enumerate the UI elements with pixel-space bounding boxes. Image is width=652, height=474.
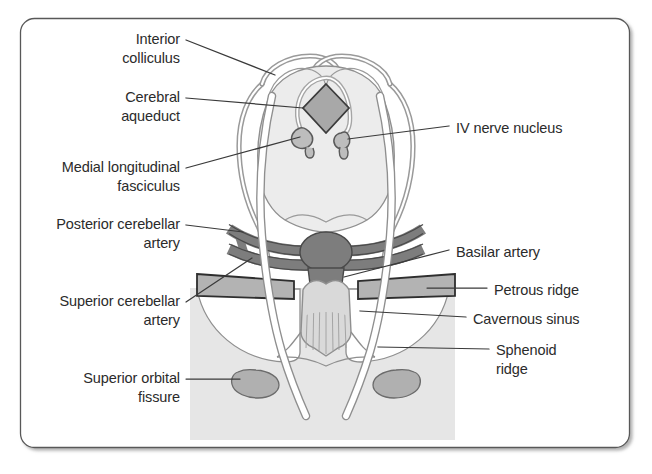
- label-superior-orbital-fissure: Superior orbital fissure: [52, 369, 180, 407]
- label-cavernous-sinus: Cavernous sinus: [473, 310, 580, 329]
- label-interior-colliculus: Interior colliculus: [88, 30, 180, 68]
- anatomy-figure: Interior colliculus Cerebral aqueduct Me…: [0, 0, 652, 474]
- label-posterior-cerebellar-artery: Posterior cerebellar artery: [26, 215, 180, 253]
- label-medial-longitudinal-fasciculus: Medial longitudinal fasciculus: [33, 158, 180, 196]
- label-sphenoid-ridge: Sphenoid ridge: [496, 341, 556, 379]
- label-superior-cerebellar-artery: Superior cerebellar artery: [34, 292, 180, 330]
- label-basilar-artery: Basilar artery: [456, 243, 540, 262]
- label-cerebral-aqueduct: Cerebral aqueduct: [88, 88, 180, 126]
- label-iv-nerve-nucleus: IV nerve nucleus: [456, 119, 562, 138]
- label-petrous-ridge: Petrous ridge: [494, 281, 579, 300]
